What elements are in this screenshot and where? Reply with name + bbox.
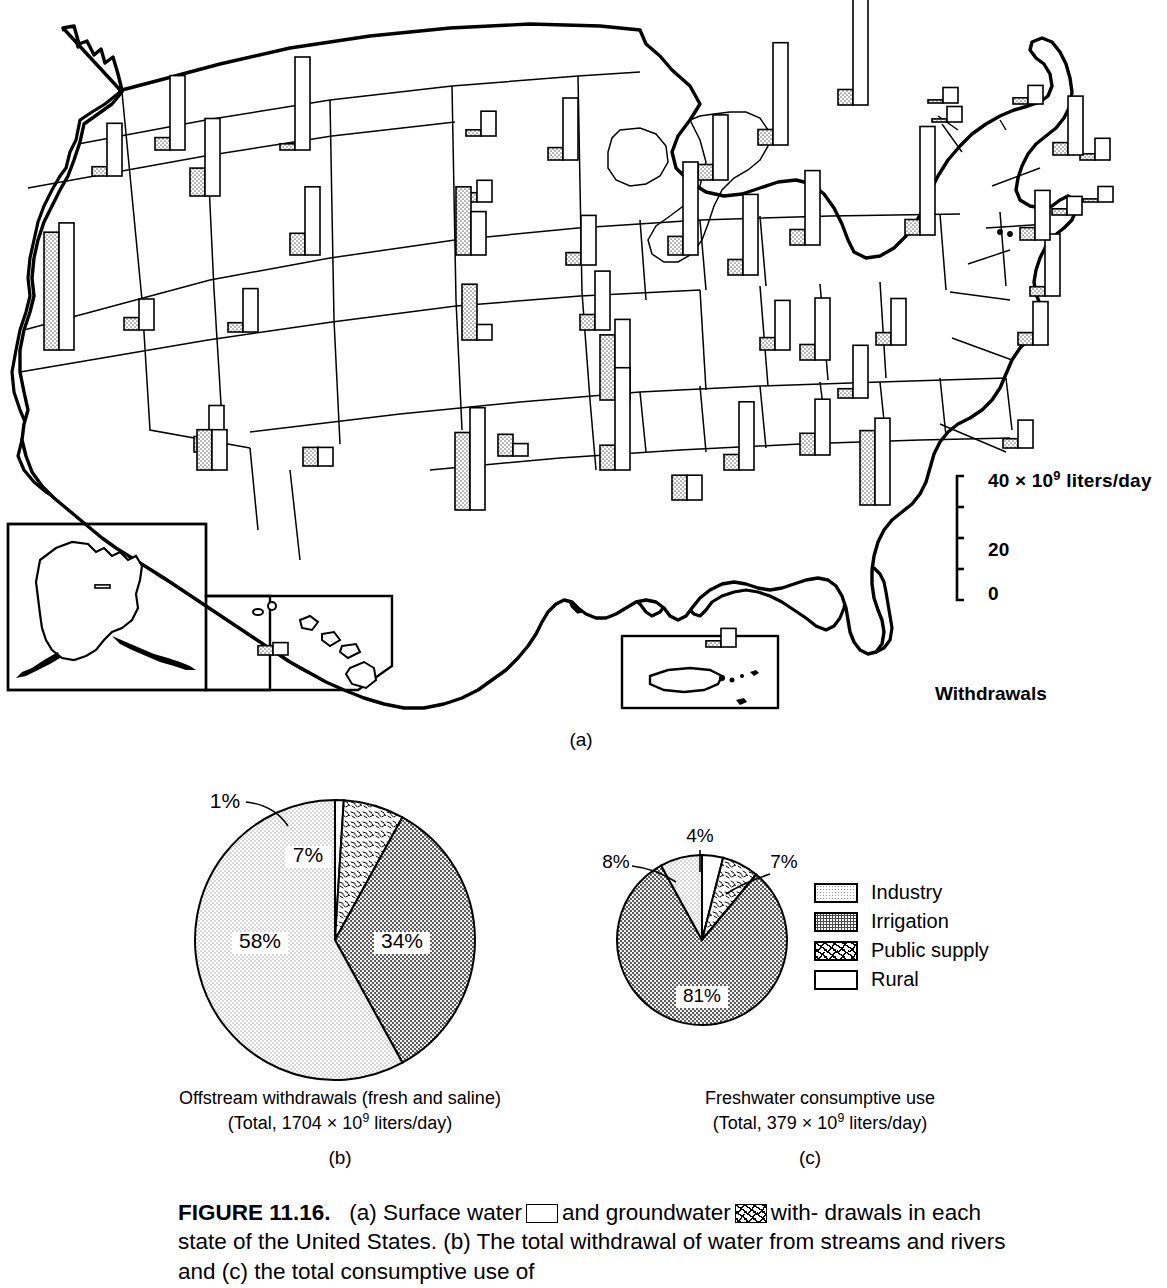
map-panel-a: 40 × 109 liters/day 20 0 Withdrawals: [0, 0, 1167, 760]
pie-label-irrigation: 34%: [381, 929, 423, 952]
surface-water-bar: [1068, 96, 1083, 155]
groundwater-bar: [1020, 228, 1035, 240]
pie-label-rural: 4%: [686, 825, 714, 846]
pie-charts-row: 1%7%34%58% 4%7%81%8%: [0, 770, 1167, 1140]
state-bar-ms: [672, 475, 702, 500]
groundwater-bar: [124, 318, 139, 330]
surface-water-bar: [563, 98, 578, 160]
irrigation-swatch-icon: [814, 912, 858, 932]
surface-water-bar: [243, 289, 258, 332]
groundwater-swatch-icon: [735, 1204, 767, 1223]
scale-label-0: 0: [988, 583, 999, 605]
state-bar-mi: [758, 43, 788, 145]
pie-chart-b: 1%7%34%58%: [170, 780, 510, 1100]
groundwater-bar: [456, 187, 471, 255]
surface-water-bar: [273, 643, 288, 655]
state-bar-az: [197, 430, 227, 470]
surface-water-bar: [853, 345, 868, 398]
groundwater-bar: [566, 253, 581, 265]
groundwater-bar: [1003, 439, 1018, 448]
groundwater-bar: [280, 144, 295, 150]
legend-label-irrigation: Irrigation: [871, 910, 949, 933]
groundwater-bar: [228, 323, 243, 332]
state-bar-nm: [303, 447, 333, 466]
rural-swatch-icon: [814, 970, 858, 990]
groundwater-bar: [668, 236, 683, 255]
surface-water-bar: [875, 418, 890, 505]
surface-water-bar: [773, 43, 788, 145]
pie-label-industry: 58%: [239, 929, 281, 952]
public-supply-swatch-icon: [814, 941, 858, 961]
groundwater-bar: [706, 641, 721, 647]
surface-water-bar: [212, 430, 227, 470]
panel-letter-c: (c): [770, 1147, 850, 1169]
surface-water-bar: [139, 299, 154, 330]
state-bar-pa: [905, 127, 935, 236]
surface-water-bar: [947, 107, 962, 123]
groundwater-bar: [698, 165, 713, 181]
surface-water-bar: [1095, 138, 1110, 160]
surface-water-bar: [687, 475, 702, 500]
pie-label-irrigation: 81%: [683, 985, 721, 1006]
legend-label-public-supply: Public supply: [871, 939, 989, 962]
groundwater-bar: [800, 433, 815, 455]
groundwater-bar: [672, 475, 687, 500]
scale-label-20: 20: [988, 539, 1010, 561]
surface-water-bar: [481, 111, 496, 136]
surface-water-bar: [743, 194, 758, 275]
surface-water-bar: [477, 325, 492, 341]
surface-water-bar: [1045, 234, 1060, 296]
caption-c-title: Freshwater consumptive use: [620, 1086, 1020, 1110]
figure-caption: FIGURE 11.16. (a) Surface waterand groun…: [178, 1198, 1008, 1286]
groundwater-bar: [290, 233, 305, 255]
legend-item-public-supply: Public supply: [814, 936, 989, 965]
panel-letter-a: (a): [541, 729, 621, 751]
pie-label-public-supply: 7%: [770, 851, 798, 872]
groundwater-bar: [92, 167, 107, 176]
pie-label-industry: 8%: [602, 851, 630, 872]
groundwater-bar: [462, 284, 477, 340]
groundwater-bar: [800, 345, 815, 361]
surface-water-bar: [205, 119, 220, 197]
caption-text-c: with-: [771, 1200, 819, 1225]
groundwater-bar: [1053, 143, 1068, 155]
groundwater-bar: [838, 389, 853, 398]
surface-water-bar: [721, 628, 736, 647]
us-map-svg: [0, 0, 1167, 760]
caption-c-total: (Total, 379 × 109 liters/day): [620, 1110, 1020, 1135]
surface-water-bar: [713, 115, 728, 180]
caption-panel-b: Offstream withdrawals (fresh and saline)…: [140, 1086, 540, 1136]
groundwater-bar: [1083, 199, 1098, 202]
surface-water-bar: [683, 162, 698, 255]
pie-label-public-supply: 7%: [293, 843, 323, 866]
surface-water-bar: [1018, 420, 1033, 448]
surface-water-bar: [853, 0, 868, 105]
withdrawals-title: Withdrawals: [935, 683, 1047, 705]
surface-water-bar: [775, 300, 790, 350]
groundwater-bar: [1052, 209, 1067, 215]
groundwater-bar: [303, 447, 318, 466]
caption-text-a: (a) Surface water: [349, 1200, 522, 1225]
caption-text-b: and groundwater: [562, 1200, 731, 1225]
surface-water-bar: [513, 444, 528, 456]
surface-water-bar: [477, 180, 492, 202]
surface-water-bar: [1028, 85, 1043, 104]
surface-water-bar: [470, 408, 485, 510]
surface-water-bar: [1067, 196, 1082, 215]
groundwater-bar: [580, 315, 595, 331]
surface-water-bar: [805, 171, 820, 245]
surface-water-bar: [318, 447, 333, 466]
groundwater-bar: [760, 338, 775, 350]
surface-water-bar: [295, 57, 310, 150]
surface-water-bar: [943, 88, 958, 104]
groundwater-bar: [155, 138, 170, 150]
caption-b-total: (Total, 1704 × 109 liters/day): [140, 1110, 540, 1135]
legend-label-industry: Industry: [871, 881, 942, 904]
surface-water-bar: [891, 299, 906, 346]
groundwater-bar: [1018, 333, 1033, 345]
state-bar-fl: [860, 418, 890, 505]
groundwater-bar: [838, 90, 853, 106]
groundwater-bar: [928, 100, 943, 103]
panel-letter-b: (b): [300, 1147, 380, 1169]
state-bar-ca: [44, 223, 74, 350]
